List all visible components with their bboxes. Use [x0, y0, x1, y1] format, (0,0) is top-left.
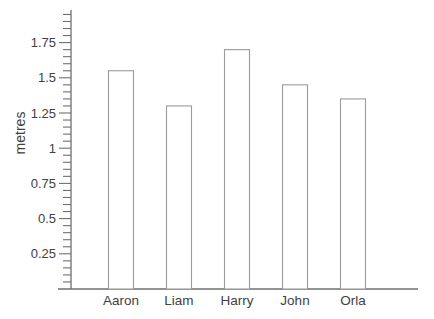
y-axis-title: metres: [12, 112, 28, 155]
y-axis-tick-label: 0.25: [31, 246, 56, 261]
bar-aaron: [109, 71, 134, 289]
x-axis-category-label: Liam: [164, 293, 193, 308]
x-axis-category-label: Aaron: [103, 293, 139, 308]
bar-liam: [167, 106, 192, 289]
bar-harry: [225, 50, 250, 289]
bar-chart: 0.250.50.7511.251.51.75AaronLiamHarryJoh…: [0, 0, 434, 319]
y-axis-tick-label: 1: [49, 141, 56, 156]
x-axis-category-label: Harry: [221, 293, 254, 308]
x-axis-category-label: Orla: [340, 293, 366, 308]
y-axis-tick-label: 0.5: [38, 211, 56, 226]
bar-john: [283, 85, 308, 289]
bar-chart-svg: 0.250.50.7511.251.51.75AaronLiamHarryJoh…: [0, 0, 434, 319]
x-axis-category-label: John: [280, 293, 309, 308]
y-axis-tick-label: 1.5: [38, 70, 56, 85]
y-axis-tick-label: 1.75: [31, 35, 56, 50]
y-axis-tick-label: 1.25: [31, 106, 56, 121]
y-axis-tick-label: 0.75: [31, 176, 56, 191]
bar-orla: [341, 99, 366, 289]
